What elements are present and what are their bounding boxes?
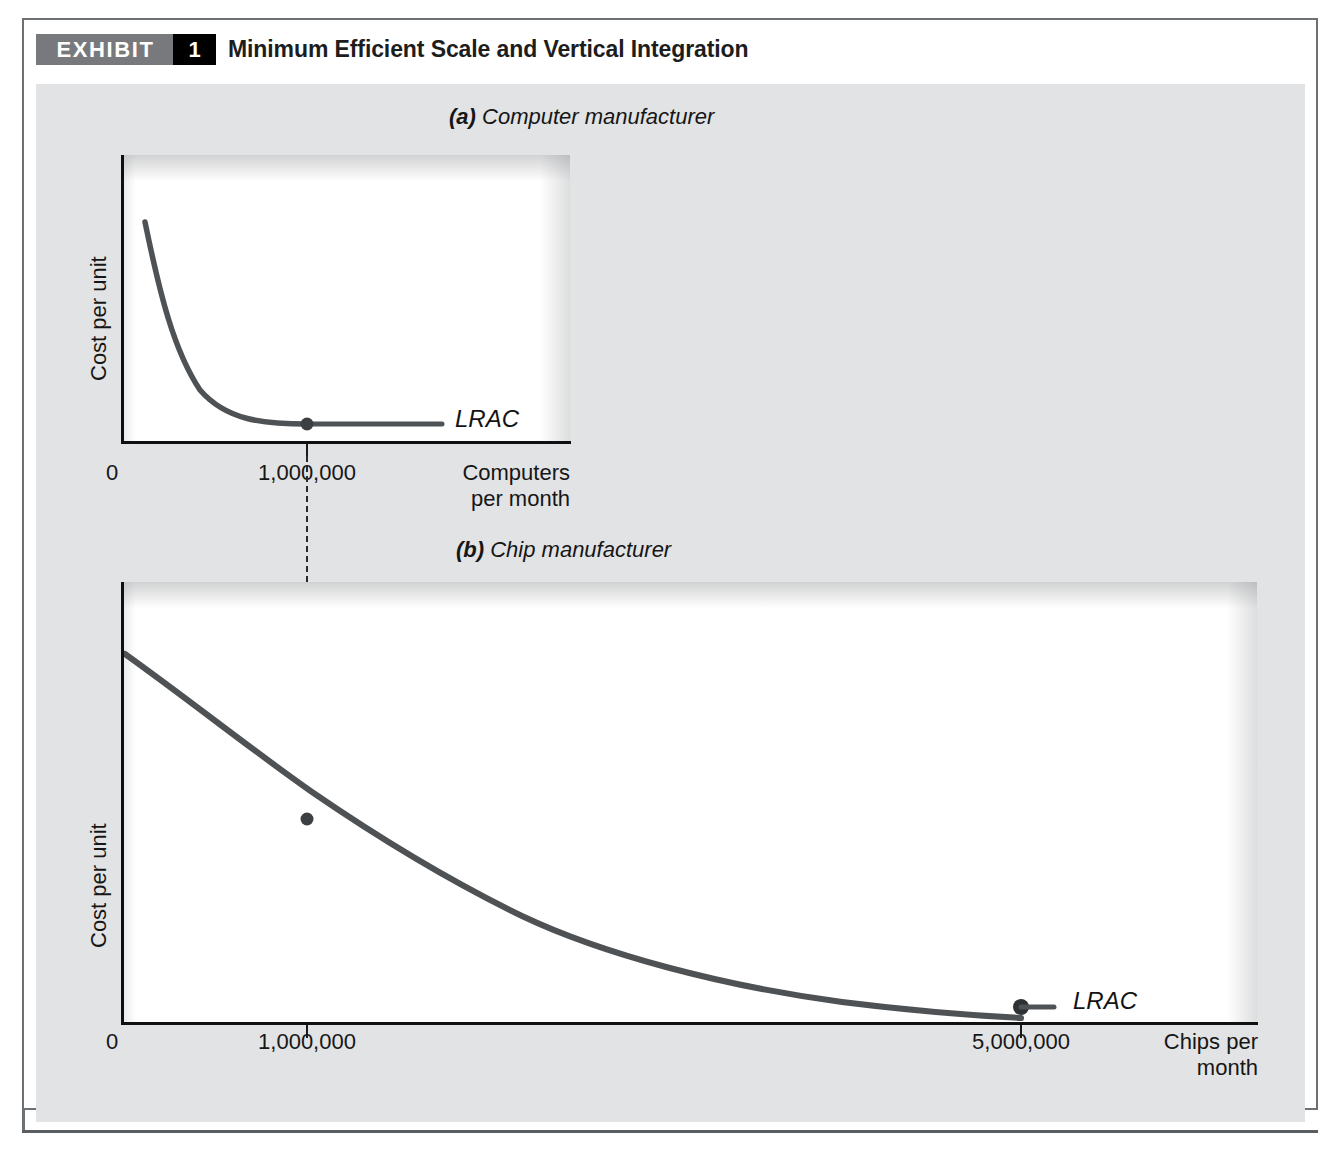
exhibit-badge: EXHIBIT [36, 34, 175, 65]
chart-b-curve-label: LRAC [1073, 987, 1137, 1015]
chart-b-y-axis-label: Cost per unit [86, 823, 112, 948]
chart-b-xtick-5000000: 5,000,000 [972, 1029, 1070, 1055]
page-title: Minimum Efficient Scale and Vertical Int… [228, 34, 748, 65]
chart-a-xtick-0: 0 [106, 460, 118, 486]
exhibit-page: Indicate the than the quantity used by p… [0, 0, 1325, 1149]
chart-b-xtick-1000000: 1,000,000 [258, 1029, 356, 1055]
chart-a-y-axis-label: Cost per unit [86, 256, 112, 381]
chart-b-y-axis [121, 582, 124, 1025]
chart-b-x-axis-label: Chips per month [1082, 1029, 1258, 1081]
chart-b-x-axis-label-line1: Chips per [1082, 1029, 1258, 1055]
panel-b-caption-text: Chip manufacturer [490, 537, 671, 562]
panel-a-tag: (a) [449, 104, 476, 129]
chart-b-lrac-curve [122, 582, 1272, 1027]
panel-a-caption: (a) Computer manufacturer [449, 104, 714, 130]
chart-b-x-axis [121, 1022, 1258, 1025]
panel-b-tag: (b) [456, 537, 484, 562]
chart-a-x-axis [121, 441, 571, 444]
chart-b-xtick-0: 0 [106, 1029, 118, 1055]
chart-a-y-axis [121, 155, 124, 444]
chart-a-x-axis-label-line2: per month [395, 486, 570, 512]
chart-a-x-axis-label: Computers per month [395, 460, 570, 512]
chart-a-lrac-curve [122, 155, 582, 445]
chart-a-curve-label: LRAC [455, 405, 519, 433]
chart-b-x-axis-label-line2: month [1082, 1055, 1258, 1081]
panel-b-caption: (b) Chip manufacturer [456, 537, 671, 563]
chart-a-x-axis-label-line1: Computers [395, 460, 570, 486]
panel-a-caption-text: Computer manufacturer [482, 104, 714, 129]
exhibit-number-box: 1 [173, 34, 216, 65]
page-bottom-rule [22, 1130, 1318, 1133]
